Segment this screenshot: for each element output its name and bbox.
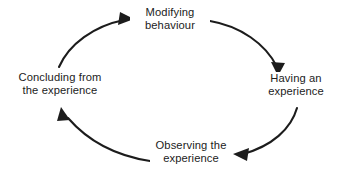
cycle-diagram: Modifying behaviour Having an experience… bbox=[0, 0, 341, 179]
node-modifying-line-1: Modifying bbox=[130, 6, 210, 19]
node-having-line-2: experience bbox=[256, 85, 336, 98]
arrowhead-into-observing bbox=[233, 148, 249, 161]
node-observing-the-experience: Observing the experience bbox=[150, 139, 232, 165]
node-having-an-experience: Having an experience bbox=[256, 72, 336, 98]
arrow-having-to-observing bbox=[243, 108, 297, 154]
page-edge bbox=[0, 176, 341, 179]
node-concluding-line-2: the experience bbox=[8, 84, 112, 97]
arrow-concluding-to-modifying bbox=[59, 20, 124, 67]
arrow-modifying-to-having bbox=[210, 21, 277, 67]
arrow-observing-to-concluding bbox=[68, 118, 150, 161]
arrowhead-into-concluding bbox=[57, 107, 70, 121]
node-observing-line-1: Observing the bbox=[150, 139, 232, 152]
node-modifying-line-2: behaviour bbox=[130, 19, 210, 32]
node-concluding-from-the-experience: Concluding from the experience bbox=[8, 71, 112, 97]
node-observing-line-2: experience bbox=[150, 152, 232, 165]
node-having-line-1: Having an bbox=[256, 72, 336, 85]
node-modifying-behaviour: Modifying behaviour bbox=[130, 6, 210, 32]
node-concluding-line-1: Concluding from bbox=[8, 71, 112, 84]
